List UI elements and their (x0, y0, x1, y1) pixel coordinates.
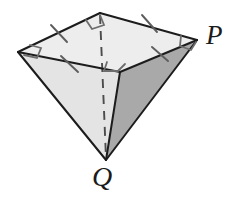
vertex-label-P: P (206, 22, 223, 49)
pyramid-drawing (0, 0, 241, 198)
vertex-label-Q: Q (92, 163, 112, 191)
geometry-figure: P Q (0, 0, 241, 198)
